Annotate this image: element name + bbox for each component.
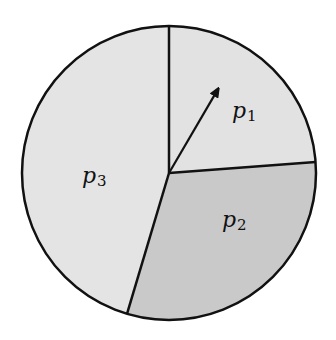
pie-diagram: p1p2p3 [0,0,336,340]
